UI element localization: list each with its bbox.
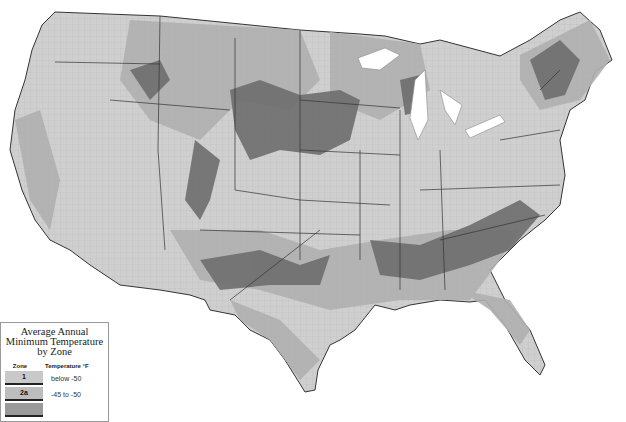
zone-swatch: 2a xyxy=(5,387,43,401)
legend-col-zone: Zone xyxy=(1,363,39,369)
zone-legend: Average Annual Minimum Temperature by Zo… xyxy=(0,322,109,422)
legend-row: 1 below -50 xyxy=(1,371,108,385)
legend-title: Average Annual Minimum Temperature by Zo… xyxy=(1,327,108,357)
zone-range: below -50 xyxy=(43,375,81,382)
legend-col-temp: Temperature °F xyxy=(39,363,89,369)
legend-row xyxy=(1,403,108,417)
legend-title-line: by Zone xyxy=(1,347,108,357)
zone-range: -45 to -50 xyxy=(43,391,81,398)
legend-row: 2a -45 to -50 xyxy=(1,387,108,401)
legend-header: Zone Temperature °F xyxy=(1,363,108,369)
zone-swatch xyxy=(5,403,43,417)
zone-swatch: 1 xyxy=(5,371,43,385)
